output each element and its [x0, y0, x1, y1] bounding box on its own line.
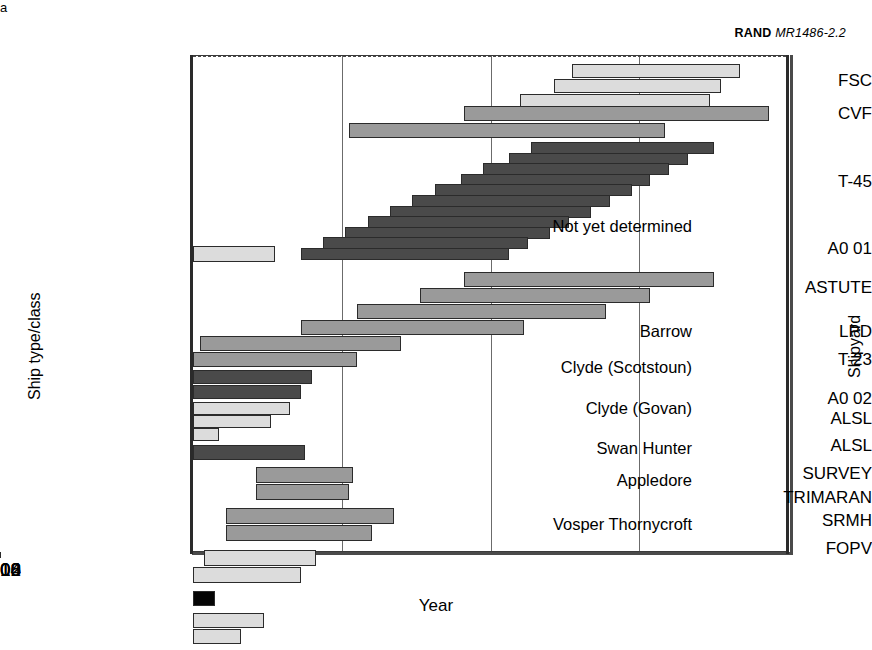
- gantt-bar: [193, 402, 290, 415]
- gantt-bar: [193, 415, 271, 428]
- x-tick-mark-2016: [0, 552, 1, 558]
- ship-class-label-alsl: ALSL: [830, 410, 872, 427]
- ship-class-label-t-45: T-45: [838, 173, 872, 190]
- ship-class-label-fopv: FOPV: [826, 540, 872, 557]
- ship-class-label-a0-02: A0 02: [828, 390, 872, 407]
- gantt-bar: [256, 467, 353, 483]
- rand-credit: RAND MR1486-2.2: [735, 26, 846, 40]
- shipyard-label-swan-hunter: Swan Hunter: [597, 440, 692, 457]
- rand-org-label: RAND: [735, 26, 772, 40]
- gantt-bar: [193, 246, 275, 262]
- x-tick-2016: 2016: [0, 559, 21, 581]
- gantt-bar: [193, 567, 301, 583]
- plot-right-shadow: [790, 55, 793, 555]
- ship-class-label-survey: SURVEY: [802, 465, 872, 482]
- gantt-bar: [464, 106, 769, 121]
- shipyard-label-clyde-govan-: Clyde (Govan): [586, 400, 692, 417]
- gantt-bar: [226, 508, 393, 524]
- shipyard-separator-5: [193, 56, 786, 57]
- rand-doc-number: MR1486-2.2: [775, 26, 846, 40]
- shipyard-label-clyde-scotstoun-: Clyde (Scotstoun): [561, 359, 692, 376]
- gantt-bar: [200, 336, 401, 351]
- gantt-plot-area: [192, 55, 787, 552]
- ship-class-label-astute: ASTUTE: [805, 279, 872, 296]
- gantt-bar: [226, 525, 371, 541]
- ship-class-label-fsc: FSC: [838, 72, 872, 89]
- gantt-bar: [193, 385, 301, 399]
- gantt-bar: [420, 288, 651, 303]
- y-axis-title-right: Shipyard: [846, 315, 864, 378]
- gantt-bar: [301, 320, 524, 335]
- gantt-bar: [572, 64, 739, 78]
- gantt-bar: [193, 629, 241, 644]
- gantt-bar: [193, 352, 357, 367]
- gantt-bar: [554, 79, 721, 93]
- ship-class-label-trimaran: TRIMARAN: [783, 489, 872, 506]
- x-axis-title: Year: [0, 596, 872, 616]
- footnote-marker-a: a: [0, 0, 7, 15]
- gantt-bar: [193, 428, 219, 441]
- gantt-bar: [464, 272, 713, 287]
- shipyard-label-not-yet-determined: Not yet determined: [553, 218, 692, 235]
- y-axis-title-left: Ship type/class: [26, 292, 44, 400]
- ship-class-label-a0-01: A0 01: [828, 240, 872, 257]
- shipyard-label-appledore: Appledore: [617, 472, 692, 489]
- shipyard-label-vosper-thornycroft: Vosper Thornycroft: [553, 516, 692, 533]
- gantt-bar: [256, 484, 349, 500]
- gantt-bar: [349, 123, 665, 138]
- figure-root: RAND MR1486-2.2 FSCCVFT-45A0 01ASTUTELPD…: [0, 0, 872, 650]
- gantt-bar: [357, 304, 606, 319]
- gantt-bar: [193, 370, 312, 384]
- shipyard-label-barrow: Barrow: [640, 323, 692, 340]
- gantt-bar: [204, 550, 316, 566]
- ship-class-label-alsl: ALSL: [830, 437, 872, 454]
- gantt-bar: [301, 248, 509, 260]
- ship-class-label-srmh: SRMH: [822, 512, 872, 529]
- gantt-bar: [193, 445, 305, 460]
- ship-class-label-cvf: CVF: [838, 105, 872, 122]
